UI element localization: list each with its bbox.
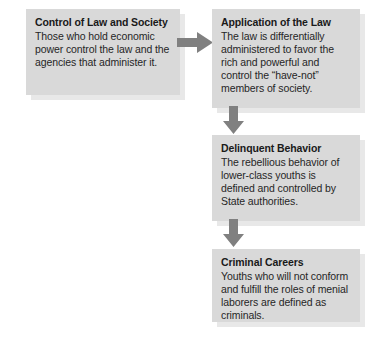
box-title-criminal-careers: Criminal Careers bbox=[221, 256, 351, 269]
arrow-down-application-to-delinquent bbox=[223, 106, 244, 134]
flowchart-diagram: Control of Law and Society Those who hol… bbox=[0, 0, 379, 344]
arrow-right-control-to-application bbox=[177, 32, 213, 53]
box-body-application-of-the-law: The law is differentially administered t… bbox=[221, 30, 351, 95]
flowchart-box-criminal-careers: Criminal Careers Youths who will not con… bbox=[212, 249, 360, 322]
box-body-delinquent-behavior: The rebellious behavior of lower-class y… bbox=[221, 156, 351, 208]
box-title-delinquent-behavior: Delinquent Behavior bbox=[221, 142, 351, 155]
flowchart-box-delinquent-behavior: Delinquent Behavior The rebellious behav… bbox=[212, 135, 360, 221]
flowchart-box-control-of-law: Control of Law and Society Those who hol… bbox=[26, 9, 180, 95]
box-title-control-of-law: Control of Law and Society bbox=[35, 16, 171, 29]
box-body-control-of-law: Those who hold economic power control th… bbox=[35, 30, 171, 69]
box-body-criminal-careers: Youths who will not conform and fulfill … bbox=[221, 270, 351, 322]
flowchart-box-application-of-the-law: Application of the Law The law is differ… bbox=[212, 9, 360, 108]
arrow-down-delinquent-to-criminal bbox=[223, 219, 244, 247]
box-title-application-of-the-law: Application of the Law bbox=[221, 16, 351, 29]
